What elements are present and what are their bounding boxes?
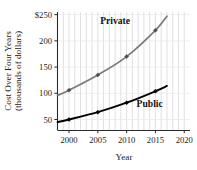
- chart-container: 50100150200$250 20002005201020152020 Pri…: [0, 0, 197, 170]
- y-axis-tick-label: 100: [39, 88, 52, 98]
- y-axis-title-group: Cost Over Four Years (thousands of dolla…: [3, 31, 23, 111]
- x-axis-tick-label: 2015: [147, 135, 164, 145]
- x-axis-tick-label: 2005: [89, 135, 106, 145]
- cost-over-four-years-line-chart: 50100150200$250 20002005201020152020 Pri…: [0, 0, 197, 170]
- y-axis-title-line2: (thousands of dollars): [13, 31, 23, 111]
- y-axis-tick-label: 150: [39, 62, 52, 72]
- x-axis-tick-label: 2000: [60, 135, 77, 145]
- x-axis-title-group: Year: [116, 152, 133, 162]
- x-axis-tick-label: 2020: [176, 135, 193, 145]
- y-axis-title-line1: Cost Over Four Years: [3, 31, 13, 111]
- series-label-private: Private: [100, 15, 131, 26]
- series-label-public: Public: [137, 98, 164, 109]
- x-axis-title: Year: [116, 152, 133, 162]
- y-axis-tick-label: 50: [43, 115, 52, 125]
- y-axis-tick-label: 200: [39, 36, 52, 46]
- x-axis-tick-label: 2010: [118, 135, 135, 145]
- y-axis-tick-label: $250: [35, 10, 52, 20]
